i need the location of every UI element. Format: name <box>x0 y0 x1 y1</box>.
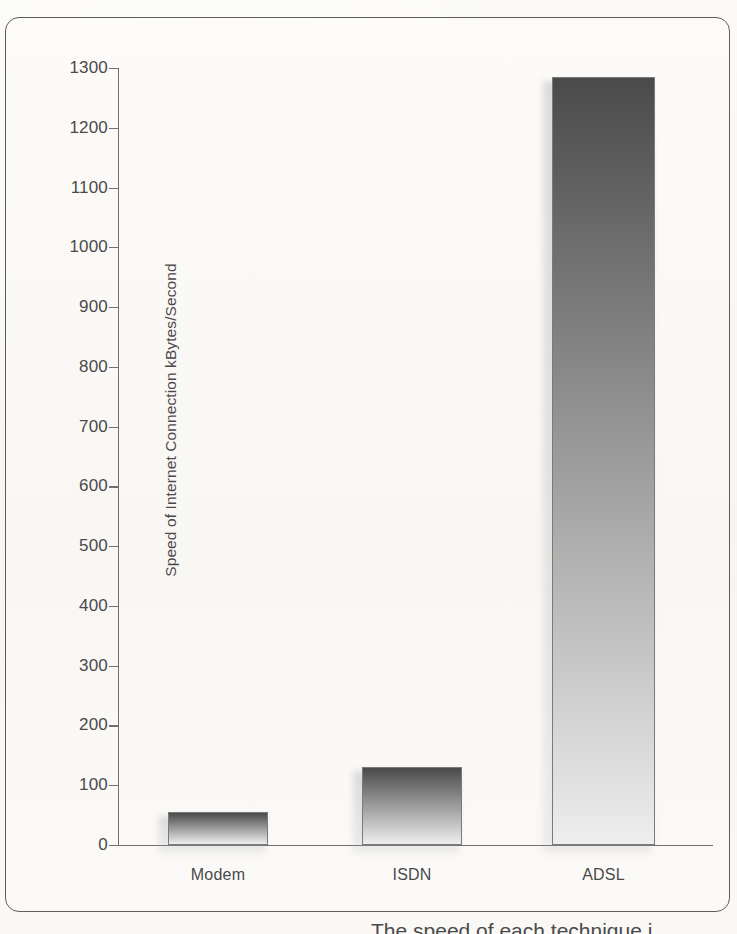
y-tick-mark <box>109 606 118 607</box>
bar-isdn <box>362 767 462 845</box>
y-tick-mark <box>109 785 118 786</box>
y-tick-mark <box>109 128 118 129</box>
y-tick-label: 1200 <box>52 118 108 138</box>
y-tick-label: 100 <box>52 775 108 795</box>
y-tick-label: 900 <box>52 297 108 317</box>
y-tick-mark <box>109 188 118 189</box>
y-tick-label: 300 <box>52 656 108 676</box>
y-tick-mark <box>109 247 118 248</box>
y-tick-label: 1000 <box>52 237 108 257</box>
figure-caption: The speed of each technique i <box>371 918 731 934</box>
y-tick-label: 200 <box>52 715 108 735</box>
y-tick-label: 400 <box>52 596 108 616</box>
y-tick-mark <box>109 486 118 487</box>
y-tick-label: 1100 <box>52 178 108 198</box>
y-tick-label: 1300 <box>52 58 108 78</box>
x-tick-label-modem: Modem <box>191 866 245 884</box>
x-tick-label-isdn: ISDN <box>392 866 431 884</box>
y-tick-mark <box>109 427 118 428</box>
y-tick-mark <box>109 307 118 308</box>
y-tick-mark <box>109 845 118 846</box>
y-tick-label: 800 <box>52 357 108 377</box>
y-tick-mark <box>109 666 118 667</box>
y-tick-mark <box>109 546 118 547</box>
bar-adsl <box>552 77 655 845</box>
y-axis-title: Speed of Internet Connection kBytes/Seco… <box>162 263 180 577</box>
bar-modem <box>168 812 268 845</box>
y-tick-label: 0 <box>52 835 108 855</box>
y-tick-label: 700 <box>52 417 108 437</box>
x-tick-label-adsl: ADSL <box>582 866 625 884</box>
bar-chart: Speed of Internet Connection kBytes/Seco… <box>0 0 737 934</box>
y-tick-mark <box>109 367 118 368</box>
y-tick-label: 500 <box>52 536 108 556</box>
y-tick-mark <box>109 68 118 69</box>
y-axis-line <box>118 68 119 846</box>
y-tick-label: 600 <box>52 476 108 496</box>
y-tick-mark <box>109 725 118 726</box>
